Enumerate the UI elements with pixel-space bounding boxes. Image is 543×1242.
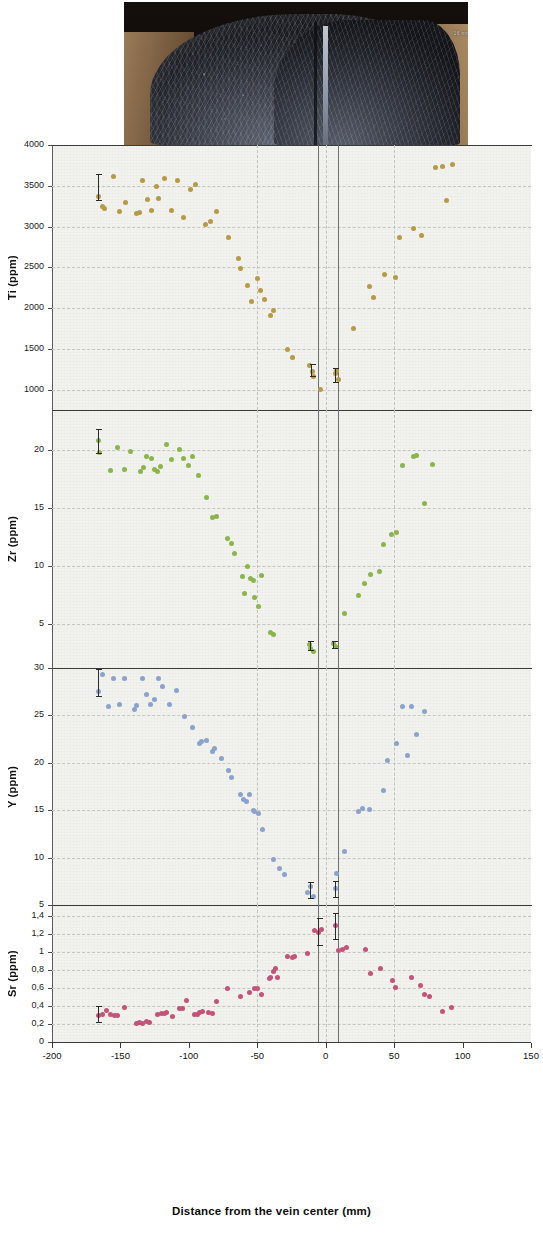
gridline-h	[52, 349, 531, 350]
error-bar-sr	[98, 1006, 99, 1023]
x-tick-label: -100	[179, 1050, 198, 1061]
x-tick-mark	[463, 1043, 464, 1048]
data-point-ti	[351, 326, 356, 331]
gridline-h	[52, 763, 531, 764]
data-point-sr	[210, 1011, 215, 1016]
data-point-zr	[155, 469, 160, 474]
y-tick-mark	[48, 227, 52, 228]
error-bar-zr	[333, 641, 334, 649]
y-axis-label-ti: Ti (ppm)	[6, 145, 18, 410]
vein-boundary-line	[338, 668, 339, 905]
data-point-y	[247, 792, 252, 797]
y-tick-mark	[48, 390, 52, 391]
data-point-ti	[440, 164, 445, 169]
data-point-zr	[356, 593, 361, 598]
x-tick-mark	[531, 1043, 532, 1048]
data-point-y	[111, 676, 116, 681]
x-tick-mark	[326, 1043, 327, 1048]
data-point-sr	[184, 998, 189, 1003]
x-tick-mark	[189, 1043, 190, 1048]
data-point-zr	[214, 514, 219, 519]
gridline-h	[52, 810, 531, 811]
gridline-h	[52, 390, 531, 391]
data-point-ti	[236, 256, 241, 261]
y-tick-mark	[48, 763, 52, 764]
data-point-ti	[255, 276, 260, 281]
vein-boundary-line	[318, 410, 319, 668]
gridline-v	[257, 905, 258, 1042]
y-tick-mark	[48, 952, 52, 953]
data-point-y	[367, 807, 372, 812]
gridline-h	[52, 988, 531, 989]
data-point-sr	[393, 985, 398, 990]
data-point-y	[422, 709, 427, 714]
error-bar-zr	[98, 429, 99, 454]
data-point-zr	[245, 564, 250, 569]
x-tick-label: 100	[455, 1050, 471, 1061]
error-bar-sr	[335, 913, 336, 940]
y-tick-mark	[48, 1006, 52, 1007]
data-point-ti	[154, 184, 159, 189]
x-tick-mark	[52, 1043, 53, 1048]
data-point-zr	[240, 574, 245, 579]
photo-scale-label: 16 mm	[442, 28, 468, 38]
data-point-zr	[362, 581, 367, 586]
vein-boundary-line	[338, 410, 339, 668]
data-point-y	[244, 799, 249, 804]
data-point-ti	[169, 208, 174, 213]
data-point-ti	[102, 206, 107, 211]
data-point-y	[204, 738, 209, 743]
data-point-zr	[115, 445, 120, 450]
gridline-h	[52, 858, 531, 859]
data-point-y	[152, 697, 157, 702]
gridline-h	[52, 508, 531, 509]
data-point-y	[122, 676, 127, 681]
y-axis-label-y: Y (ppm)	[6, 668, 18, 905]
x-tick-label: -200	[42, 1050, 61, 1061]
data-point-sr	[422, 992, 427, 997]
gridline-h	[52, 450, 531, 451]
data-point-sr	[285, 954, 290, 959]
gridline-h	[52, 186, 531, 187]
gridline-h	[52, 267, 531, 268]
y-tick-mark	[48, 145, 52, 146]
data-point-ti	[140, 178, 145, 183]
data-point-ti	[411, 226, 416, 231]
x-axis: -200-150-100-50050100150	[52, 1042, 531, 1043]
x-tick-label: -150	[111, 1050, 130, 1061]
data-point-ti	[203, 222, 208, 227]
gridline-h	[52, 916, 531, 917]
data-point-sr	[147, 1020, 152, 1025]
data-point-sr	[247, 990, 252, 995]
data-point-zr	[122, 467, 127, 472]
gridline-v	[394, 668, 395, 905]
gridline-v	[326, 905, 327, 1042]
data-point-zr	[232, 551, 237, 556]
gridline-v	[257, 668, 258, 905]
y-tick-mark	[48, 858, 52, 859]
data-point-y	[219, 756, 224, 761]
data-point-zr	[422, 501, 427, 506]
y-tick-mark	[48, 1024, 52, 1025]
gridline-h	[52, 952, 531, 953]
data-point-y	[360, 806, 365, 811]
y-tick-mark	[48, 186, 52, 187]
data-point-ti	[318, 387, 323, 392]
data-point-ti	[290, 355, 295, 360]
y-tick-mark	[48, 624, 52, 625]
x-tick-mark	[120, 1043, 121, 1048]
vein-boundary-line	[318, 145, 319, 410]
data-point-zr	[144, 454, 149, 459]
data-point-ti	[137, 210, 142, 215]
data-point-ti	[397, 235, 402, 240]
error-bar-y	[98, 669, 99, 697]
data-point-ti	[367, 284, 372, 289]
vein-hand-specimen-photo: 16 mm	[124, 2, 468, 145]
y-tick-mark	[48, 508, 52, 509]
data-point-sr	[273, 966, 278, 971]
vein-center-band	[323, 26, 328, 145]
gridline-h	[52, 227, 531, 228]
y-tick-mark	[48, 566, 52, 567]
error-bar-zr	[310, 641, 311, 650]
gridline-v	[394, 410, 395, 668]
